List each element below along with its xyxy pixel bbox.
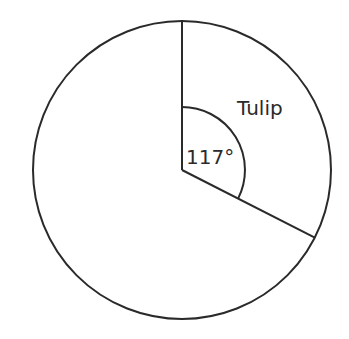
- slice-label-tulip: Tulip: [236, 96, 283, 120]
- angle-label: 117°: [186, 145, 234, 169]
- slice-boundary-tulip-end: [182, 170, 315, 238]
- pie-chart: Tulip 117°: [0, 0, 349, 339]
